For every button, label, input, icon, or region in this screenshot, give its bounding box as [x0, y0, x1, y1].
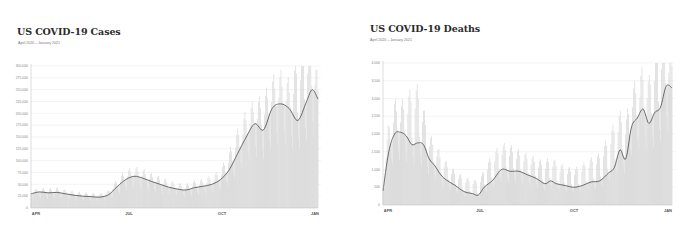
- daily-bar: [394, 104, 395, 205]
- daily-bar: [288, 77, 289, 208]
- daily-bar: [666, 116, 667, 205]
- daily-bar: [38, 192, 39, 208]
- daily-bar: [423, 111, 424, 205]
- daily-bar: [579, 189, 580, 205]
- daily-bar: [487, 170, 488, 205]
- daily-bar: [204, 192, 205, 208]
- x-tick-label: APR: [384, 208, 393, 213]
- daily-bar: [414, 164, 415, 205]
- daily-bar: [520, 170, 521, 205]
- daily-bar: [75, 199, 76, 208]
- daily-bar: [197, 193, 198, 208]
- daily-bar: [551, 189, 552, 205]
- daily-bar: [390, 144, 391, 205]
- daily-bar: [429, 147, 430, 205]
- daily-bar: [134, 189, 135, 208]
- daily-bar: [434, 175, 435, 205]
- daily-bar: [294, 71, 295, 208]
- daily-bar: [303, 66, 304, 208]
- daily-bar: [299, 149, 300, 208]
- x-tick-label: JUL: [125, 211, 133, 216]
- daily-bar: [231, 151, 232, 208]
- daily-bar: [670, 63, 671, 205]
- daily-bar: [265, 96, 266, 208]
- daily-bar: [86, 192, 87, 208]
- daily-bar: [301, 66, 302, 208]
- daily-bar: [116, 183, 117, 208]
- daily-bar: [483, 173, 484, 205]
- daily-bar: [613, 125, 614, 205]
- daily-bar: [433, 162, 434, 205]
- daily-bar: [90, 201, 91, 208]
- daily-bar: [49, 189, 50, 208]
- daily-bar: [528, 173, 529, 205]
- daily-bar: [635, 93, 636, 205]
- daily-bar: [588, 190, 589, 205]
- daily-bar: [424, 111, 425, 205]
- daily-bar: [456, 190, 457, 205]
- daily-bar: [95, 197, 96, 208]
- daily-bar: [259, 96, 260, 208]
- daily-bar: [473, 184, 474, 205]
- daily-bar: [626, 119, 627, 205]
- daily-bar: [503, 146, 504, 205]
- daily-bar: [67, 194, 68, 208]
- daily-bar: [669, 73, 670, 205]
- daily-bar: [612, 131, 613, 205]
- daily-bar: [415, 109, 416, 205]
- daily-bar: [457, 193, 458, 205]
- daily-bar: [476, 183, 477, 205]
- daily-bar: [118, 191, 119, 208]
- daily-bar: [44, 190, 45, 208]
- daily-bar: [628, 114, 629, 205]
- daily-bar: [167, 186, 168, 208]
- daily-bar: [242, 169, 243, 208]
- daily-bar: [471, 195, 472, 205]
- daily-bar: [283, 103, 284, 208]
- x-tick-label: APR: [32, 211, 41, 216]
- daily-bar: [84, 195, 85, 208]
- daily-bar: [53, 197, 54, 208]
- daily-bar: [199, 185, 200, 208]
- daily-bar: [257, 119, 258, 208]
- daily-bar: [135, 175, 136, 208]
- daily-bar: [46, 197, 47, 208]
- daily-bar: [37, 190, 38, 208]
- daily-bar: [250, 124, 251, 208]
- daily-bar: [502, 155, 503, 205]
- y-tick-label: 0: [26, 206, 28, 210]
- daily-bar: [648, 82, 649, 205]
- daily-bar: [624, 173, 625, 205]
- daily-bar: [202, 182, 203, 208]
- y-tick-label: 250,000: [16, 88, 28, 92]
- cases-panel: US COVID-19 Cases April 2020 – January 2…: [0, 0, 344, 233]
- daily-bar: [34, 193, 35, 208]
- y-tick-label: 3,500: [372, 79, 381, 83]
- daily-bar: [397, 130, 398, 205]
- daily-bar: [142, 176, 143, 208]
- daily-bar: [93, 193, 94, 208]
- daily-bar: [458, 179, 459, 205]
- daily-bar: [262, 149, 263, 208]
- daily-bar: [584, 162, 585, 205]
- daily-bar: [466, 183, 467, 205]
- daily-bar: [417, 84, 418, 205]
- daily-bar: [486, 191, 487, 205]
- daily-bar: [153, 182, 154, 208]
- daily-bar: [671, 63, 672, 205]
- daily-bar: [107, 191, 108, 208]
- daily-bar: [643, 80, 644, 205]
- daily-bar: [664, 63, 665, 205]
- daily-bar: [608, 178, 609, 205]
- daily-bar: [560, 171, 561, 205]
- daily-bar: [464, 196, 465, 205]
- daily-bar: [174, 184, 175, 208]
- daily-bar: [269, 139, 270, 208]
- daily-bar: [298, 138, 299, 208]
- daily-bar: [304, 99, 305, 208]
- daily-bar: [445, 162, 446, 205]
- daily-bar: [62, 199, 63, 208]
- daily-bar: [533, 156, 534, 205]
- daily-bar: [188, 186, 189, 208]
- daily-bar: [217, 175, 218, 208]
